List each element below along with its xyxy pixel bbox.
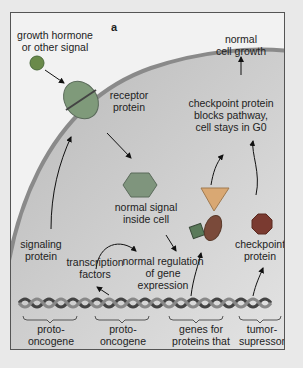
signal-ball-icon bbox=[30, 56, 44, 70]
label-growth-signal: growth hormone or other signal bbox=[11, 29, 99, 53]
label-receptor: receptor protein bbox=[99, 89, 159, 113]
label-checkpoint-blocks: checkpoint protein blocks pathway, cell … bbox=[181, 97, 281, 133]
label-normal-regulation: normal regulation of gene expression bbox=[113, 255, 213, 291]
label-normal-growth: normal cell growth bbox=[201, 33, 281, 57]
cell-diagram bbox=[11, 13, 284, 349]
panel-label: a bbox=[111, 21, 117, 33]
octagon-icon bbox=[252, 214, 272, 234]
label-normal-signal: normal signal inside cell bbox=[106, 201, 186, 225]
label-signaling-protein: signaling protein bbox=[13, 238, 69, 262]
label-proto-oncogene-2: proto- oncogene bbox=[93, 323, 153, 347]
label-tumor-suppressor: tumor- supressor gene bbox=[233, 323, 285, 350]
hexagon-icon bbox=[123, 173, 157, 197]
diagram-frame: a growth hormone or other signal recepto… bbox=[10, 12, 285, 350]
label-checkpoint-protein: checkpoint protein bbox=[233, 238, 285, 262]
label-proto-oncogene-1: proto- oncogene bbox=[21, 323, 81, 347]
